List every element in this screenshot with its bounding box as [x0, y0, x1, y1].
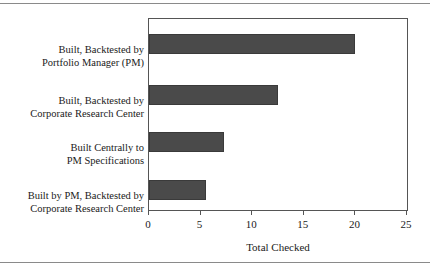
category-label-1: Built, Backtested by Corporate Research … [0, 95, 144, 120]
x-tick-2 [251, 211, 252, 215]
x-tick-label-3: 15 [283, 217, 323, 231]
x-axis-title: Total Checked [148, 240, 408, 254]
category-label-1-line-1: Corporate Research Center [0, 108, 144, 121]
x-tick-label-0: 0 [128, 217, 168, 231]
bar-3 [149, 180, 206, 200]
category-label-2: Built Centrally to PM Specifications [0, 142, 144, 167]
x-axis-tick-labels: 0510152025 [148, 217, 408, 233]
category-label-0: Built, Backtested by Portfolio Manager (… [0, 44, 144, 69]
category-label-1-line-0: Built, Backtested by [0, 95, 144, 108]
x-tick-0 [148, 211, 149, 215]
category-label-3-line-1: Corporate Research Center [0, 203, 144, 216]
category-label-3: Built by PM, Backtested by Corporate Res… [0, 190, 144, 215]
x-tick-5 [406, 211, 407, 215]
bar-2 [149, 132, 224, 152]
category-label-0-line-0: Built, Backtested by [0, 44, 144, 57]
chart-page: Built, Backtested by Portfolio Manager (… [0, 0, 430, 280]
category-axis-labels: Built, Backtested by Portfolio Manager (… [0, 18, 144, 211]
plot-area [148, 18, 408, 211]
category-label-2-line-0: Built Centrally to [0, 142, 144, 155]
category-label-2-line-1: PM Specifications [0, 155, 144, 168]
category-label-0-line-1: Portfolio Manager (PM) [0, 57, 144, 70]
x-tick-4 [354, 211, 355, 215]
bar-0 [149, 34, 355, 54]
bar-1 [149, 85, 278, 105]
x-tick-3 [303, 211, 304, 215]
x-tick-1 [200, 211, 201, 215]
x-tick-label-5: 25 [386, 217, 426, 231]
top-divider-rule [0, 3, 430, 4]
x-tick-label-1: 5 [180, 217, 220, 231]
x-axis-ticks [148, 211, 408, 216]
bottom-divider-rule [0, 262, 430, 263]
x-tick-label-2: 10 [231, 217, 271, 231]
category-label-3-line-0: Built by PM, Backtested by [0, 190, 144, 203]
x-tick-label-4: 20 [334, 217, 374, 231]
